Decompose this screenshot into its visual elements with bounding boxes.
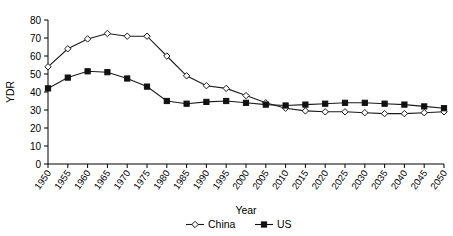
x-tick-label: 2000: [230, 168, 251, 192]
data-point-marker: [422, 104, 427, 109]
data-point-marker: [362, 110, 368, 116]
series-layer: [45, 30, 447, 117]
data-point-marker: [164, 98, 169, 103]
y-axis-tick-labels: 01020304050607080: [30, 15, 42, 170]
data-point-marker: [224, 98, 229, 103]
series-us: [45, 69, 446, 111]
y-axis-ticks: [44, 20, 48, 164]
x-tick-label: 1955: [52, 168, 73, 192]
data-point-marker: [381, 110, 387, 116]
x-tick-label: 1990: [190, 168, 211, 192]
data-point-marker: [303, 102, 308, 107]
x-tick-label: 2025: [329, 168, 350, 192]
x-tick-label: 2030: [349, 168, 370, 192]
data-point-marker: [362, 100, 367, 105]
data-point-marker: [85, 69, 90, 74]
x-axis-title: Year: [235, 204, 257, 216]
x-tick-label: 1985: [171, 168, 192, 192]
x-tick-label: 1965: [91, 168, 112, 192]
y-axis-title: YDR: [4, 80, 16, 103]
y-tick-label: 20: [30, 123, 42, 134]
chart-legend: ChinaUS: [186, 218, 292, 230]
data-point-marker: [243, 92, 249, 98]
x-tick-label: 2045: [408, 168, 429, 192]
legend-label: China: [208, 218, 236, 230]
data-point-marker: [223, 85, 229, 91]
x-tick-label: 2035: [369, 168, 390, 192]
legend-item-china[interactable]: China: [186, 218, 236, 230]
data-point-marker: [203, 83, 209, 89]
data-point-marker: [263, 102, 268, 107]
data-point-marker: [105, 70, 110, 75]
data-point-marker: [421, 110, 427, 116]
x-axis-ticks: [48, 164, 444, 168]
x-tick-label: 2010: [270, 168, 291, 192]
data-point-marker: [283, 103, 288, 108]
data-point-marker: [382, 101, 387, 106]
data-point-marker: [45, 86, 50, 91]
y-tick-label: 10: [30, 141, 42, 152]
x-tick-label: 1970: [111, 168, 132, 192]
x-tick-label: 1950: [32, 168, 53, 192]
x-tick-label: 2005: [250, 168, 271, 192]
x-tick-label: 1995: [210, 168, 231, 192]
data-point-marker: [125, 76, 130, 81]
data-point-marker: [401, 110, 407, 116]
data-point-marker: [322, 109, 328, 115]
x-tick-label: 1980: [151, 168, 172, 192]
x-tick-label: 1960: [72, 168, 93, 192]
ydr-line-chart: 01020304050607080 1950195519601965197019…: [0, 0, 453, 236]
data-point-marker: [144, 84, 149, 89]
data-point-marker: [65, 75, 70, 80]
y-tick-label: 50: [30, 69, 42, 80]
y-tick-label: 70: [30, 33, 42, 44]
x-tick-label: 2040: [388, 168, 409, 192]
y-tick-label: 80: [30, 15, 42, 26]
data-point-marker: [402, 102, 407, 107]
x-tick-label: 2050: [428, 168, 449, 192]
data-point-marker: [204, 99, 209, 104]
y-tick-label: 30: [30, 105, 42, 116]
chart-figure: 01020304050607080 1950195519601965197019…: [0, 0, 453, 236]
legend-label: US: [277, 218, 292, 230]
y-tick-label: 40: [30, 87, 42, 98]
data-point-marker: [184, 101, 189, 106]
y-tick-label: 0: [35, 159, 41, 170]
x-tick-label: 1975: [131, 168, 152, 192]
data-point-marker: [302, 108, 308, 114]
data-point-marker: [342, 100, 347, 105]
x-tick-label: 2015: [289, 168, 310, 192]
data-point-marker: [124, 33, 130, 39]
x-tick-label: 2020: [309, 168, 330, 192]
x-axis-tick-labels: 1950195519601965197019751980198519901995…: [32, 168, 449, 192]
data-point-marker: [243, 100, 248, 105]
legend-item-us[interactable]: US: [255, 218, 292, 230]
y-tick-label: 60: [30, 51, 42, 62]
legend-marker-filled-square-icon: [261, 222, 266, 227]
data-point-marker: [342, 109, 348, 115]
data-point-marker: [104, 30, 110, 36]
data-point-marker: [441, 106, 446, 111]
legend-marker-open-diamond-icon: [192, 221, 198, 227]
data-point-marker: [84, 36, 90, 42]
data-point-marker: [323, 101, 328, 106]
